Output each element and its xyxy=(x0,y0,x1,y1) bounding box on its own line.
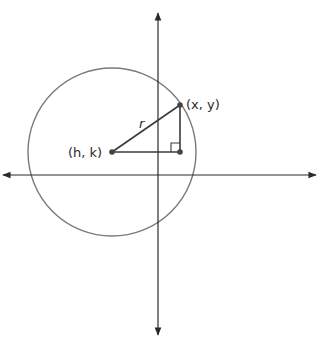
circle-point xyxy=(177,102,183,108)
right-angle-vertex-point xyxy=(177,149,183,155)
point-label: (x, y) xyxy=(186,97,220,112)
diagram-canvas: (h, k) (x, y) r xyxy=(0,0,319,342)
center-point xyxy=(109,149,115,155)
center-label: (h, k) xyxy=(68,145,102,160)
radius-segment xyxy=(112,105,180,152)
